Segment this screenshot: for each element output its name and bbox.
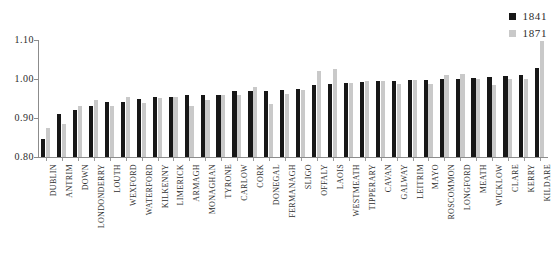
x-axis-tick [142, 158, 143, 161]
bar-group [440, 40, 449, 157]
x-axis-label: DONEGAL [272, 164, 281, 205]
bar-1871 [142, 103, 146, 157]
x-axis-label: SLIGO [304, 164, 313, 189]
bar-1871 [444, 75, 448, 157]
x-axis-label: MEATH [479, 164, 488, 193]
bar-1871 [158, 98, 162, 157]
x-axis-label: TYRONE [224, 164, 233, 199]
bar-group [344, 40, 353, 157]
x-axis-label: LAOIS [336, 164, 345, 189]
x-axis-tick [397, 158, 398, 161]
bar-group [216, 40, 225, 157]
bar-1841 [392, 81, 396, 157]
x-axis-label: GALWAY [400, 164, 409, 199]
x-axis-tick [285, 158, 286, 161]
bar-1841 [296, 89, 300, 157]
bar-group [153, 40, 162, 157]
bar-1841 [487, 77, 491, 157]
legend-swatch-1871 [509, 30, 516, 37]
x-axis-label: OFFALY [320, 164, 329, 196]
x-axis-tick [333, 158, 334, 161]
bar-1871 [460, 74, 464, 157]
y-axis-tick-label: 0.80 [0, 151, 34, 162]
bar-1871 [62, 124, 66, 157]
x-axis-label: WATERFORD [145, 164, 154, 215]
x-axis-label: DUBLIN [49, 164, 58, 196]
bar-1841 [137, 99, 141, 158]
legend-label-1871: 1871 [523, 27, 547, 41]
bar-group [360, 40, 369, 157]
bar-1841 [280, 90, 284, 157]
x-axis-label: KILDARE [543, 164, 552, 202]
x-axis-label: ROSCOMMON [447, 164, 456, 220]
x-axis-label: WESTMEATH [352, 164, 361, 216]
x-axis-tick [428, 158, 429, 161]
bar-1871 [428, 84, 432, 157]
bar-1841 [312, 85, 316, 157]
bar-group [57, 40, 66, 157]
bar-1841 [264, 91, 268, 157]
y-axis-tick-label: 0.90 [0, 112, 34, 123]
bar-1871 [540, 41, 544, 157]
x-axis-tick [381, 158, 382, 161]
x-axis-label: WEXFORD [129, 164, 138, 206]
x-axis-tick [46, 158, 47, 161]
x-axis-label: LEITRIM [416, 164, 425, 199]
chart-legend: 1841 1871 [509, 8, 547, 42]
bar-group [137, 40, 146, 157]
bar-1871 [94, 100, 98, 157]
bar-1841 [519, 75, 523, 157]
bar-group [169, 40, 178, 157]
bar-1871 [381, 81, 385, 157]
x-axis-tick [413, 158, 414, 161]
x-axis-label: LIMERICK [176, 164, 185, 205]
x-axis-label: LONGFORD [463, 164, 472, 210]
bar-1841 [89, 106, 93, 157]
bar-1871 [237, 95, 241, 157]
bar-1841 [169, 97, 173, 157]
x-axis-label: CARLOW [240, 164, 249, 201]
bar-1841 [376, 81, 380, 157]
bar-1871 [205, 100, 209, 157]
x-axis-labels: DUBLINANTRIMDOWNLONDONDERRYLOUTHWEXFORDW… [38, 164, 548, 259]
x-axis-label: ARMAGH [192, 164, 201, 202]
bar-1871 [413, 80, 417, 157]
bar-1841 [121, 102, 125, 157]
x-axis-tick [173, 158, 174, 161]
bar-group [280, 40, 289, 157]
x-axis-tick [492, 158, 493, 161]
bar-1871 [46, 128, 50, 157]
x-axis-label: MONAGHAN [208, 164, 217, 214]
bar-group [376, 40, 385, 157]
x-axis-label: MAYO [431, 164, 440, 189]
bar-1871 [110, 106, 114, 157]
bar-1871 [476, 79, 480, 157]
bar-1871 [365, 81, 369, 157]
bar-1871 [397, 84, 401, 157]
bar-1871 [269, 104, 273, 157]
bar-group [248, 40, 257, 157]
x-axis-tick [189, 158, 190, 161]
bar-group [503, 40, 512, 157]
x-axis-label: TIPPERARY [368, 164, 377, 210]
bar-1841 [344, 83, 348, 157]
bar-1841 [153, 97, 157, 157]
x-axis-tick [460, 158, 461, 161]
bar-group [328, 40, 337, 157]
x-axis-tick [237, 158, 238, 161]
plot-area [38, 40, 548, 157]
x-axis-tick [540, 158, 541, 161]
bar-1841 [440, 79, 444, 157]
x-axis-label: KILKENNY [161, 164, 170, 208]
bar-1871 [78, 106, 82, 157]
bar-1871 [317, 71, 321, 157]
bar-1841 [408, 80, 412, 157]
bar-group [519, 40, 528, 157]
bar-group [535, 40, 544, 157]
bar-1841 [232, 91, 236, 157]
bar-group [408, 40, 417, 157]
x-axis-tick [205, 158, 206, 161]
x-axis-tick [269, 158, 270, 161]
x-axis-tick [253, 158, 254, 161]
bar-1841 [73, 110, 77, 157]
